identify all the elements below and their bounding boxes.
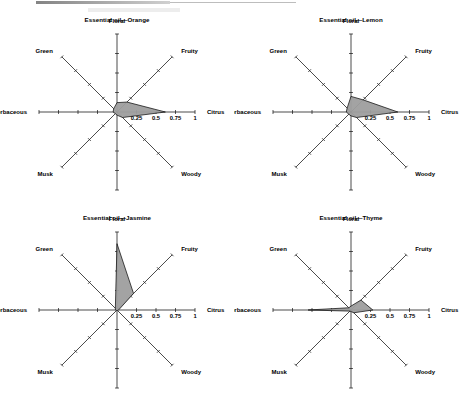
radial-tick-label: 1 — [427, 313, 431, 319]
axis-label-fruity: Fruity — [415, 48, 432, 54]
radial-tick-label: 0.25 — [365, 115, 377, 121]
axis-label-citrus: Citrus — [441, 307, 459, 313]
axis-label-fruity: Fruity — [181, 246, 198, 252]
radial-tick-label: 0.5 — [386, 313, 395, 319]
series-polygon — [308, 300, 373, 313]
radial-tick-label: 0.75 — [404, 115, 416, 121]
series-polygon — [115, 244, 133, 311]
axis-label-musk: Musk — [38, 171, 54, 177]
axis-label-herbaceous: Herbaceous — [0, 109, 28, 115]
radar-plot: FloralFruityCitrusWoodyOrientalMuskHerba… — [234, 0, 468, 198]
radar-chart-grid: Essential oil—Orange FloralFruityCitrusW… — [0, 0, 468, 395]
radial-tick-label: 0.75 — [170, 313, 182, 319]
axis-label-woody: Woody — [181, 369, 202, 375]
axis-label-citrus: Citrus — [207, 109, 225, 115]
axis-label-woody: Woody — [181, 171, 202, 177]
axis-label-woody: Woody — [415, 171, 436, 177]
radar-panel-orange: Essential oil—Orange FloralFruityCitrusW… — [0, 0, 234, 198]
axis-label-musk: Musk — [272, 369, 288, 375]
axis-label-floral: Floral — [109, 18, 126, 24]
radial-tick-label: 0.5 — [152, 313, 161, 319]
axis-label-floral: Floral — [343, 216, 360, 222]
radar-plot: FloralFruityCitrusWoodyOrientalMuskHerba… — [234, 198, 468, 395]
radial-tick-label: 0.25 — [365, 313, 377, 319]
radar-panel-lemon: Essential oil—Lemon FloralFruityCitrusWo… — [234, 0, 468, 198]
axis-label-herbaceous: Herbaceous — [234, 307, 262, 313]
axis-label-citrus: Citrus — [207, 307, 225, 313]
axis-label-fruity: Fruity — [181, 48, 198, 54]
axis-label-floral: Floral — [109, 216, 126, 222]
axis-label-woody: Woody — [415, 369, 436, 375]
axis-label-herbaceous: Herbaceous — [234, 109, 262, 115]
axis-label-citrus: Citrus — [441, 109, 459, 115]
axis-label-musk: Musk — [38, 369, 54, 375]
radial-tick-label: 1 — [193, 115, 197, 121]
axis-label-musk: Musk — [272, 171, 288, 177]
axis-label-fruity: Fruity — [415, 246, 432, 252]
radar-panel-thyme: Essential oil—Thyme FloralFruityCitrusWo… — [234, 198, 468, 395]
radial-tick-label: 0.25 — [131, 313, 143, 319]
radar-plot: FloralFruityCitrusWoodyOrientalMuskHerba… — [0, 198, 234, 395]
axis-label-green: Green — [270, 246, 288, 252]
radar-panel-jasmine: Essential oil—Jasmine FloralFruityCitrus… — [0, 198, 234, 395]
axis-label-green: Green — [270, 48, 288, 54]
axis-label-green: Green — [36, 246, 54, 252]
axis-label-green: Green — [36, 48, 54, 54]
axis-label-floral: Floral — [343, 18, 360, 24]
radial-tick-label: 0.5 — [152, 115, 161, 121]
radial-tick-label: 0.25 — [131, 115, 143, 121]
radial-tick-label: 1 — [427, 115, 431, 121]
radial-tick-label: 1 — [193, 313, 197, 319]
radial-tick-label: 0.5 — [386, 115, 395, 121]
radial-tick-label: 0.75 — [404, 313, 416, 319]
radial-tick-label: 0.75 — [170, 115, 182, 121]
radar-plot: FloralFruityCitrusWoodyOrientalMuskHerba… — [0, 0, 234, 198]
axis-label-herbaceous: Herbaceous — [0, 307, 28, 313]
